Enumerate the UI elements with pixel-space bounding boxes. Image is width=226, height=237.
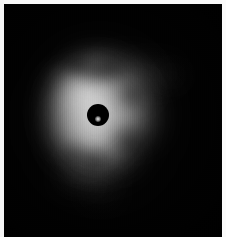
south-west-ridge (60, 113, 96, 157)
field-vignette (4, 4, 222, 237)
south-central-dark-notch (78, 150, 111, 169)
north-west-dust-notch (64, 56, 92, 75)
sky-field (4, 4, 222, 237)
western-rim (54, 80, 86, 140)
outer-diffuse-envelope (42, 50, 158, 190)
top-border (0, 0, 226, 4)
west-faint-streak (45, 70, 65, 76)
inner-bright-halo (57, 70, 137, 158)
coronagraphic-image-figure (0, 0, 226, 237)
right-border (222, 0, 226, 237)
scan-striping-overlay (4, 4, 222, 237)
south-tail-lower (85, 178, 117, 202)
northern-dust-lane (79, 59, 129, 82)
upper-left-bright-arc (58, 72, 110, 112)
south-west-tail (61, 164, 91, 188)
south-east-faint-spur (108, 150, 140, 170)
residual-stellar-core (95, 116, 101, 122)
south-west-dark-gap (64, 145, 84, 163)
eastern-arc (108, 92, 152, 136)
south-tail-upper (68, 155, 116, 181)
far-north-east-tip (158, 70, 186, 82)
south-east-dark-wedge (109, 124, 147, 157)
north-east-lobe (106, 64, 146, 96)
southern-bright-extension (76, 123, 124, 163)
northern-clump (74, 57, 118, 87)
occulting-spot (87, 104, 109, 126)
left-border (0, 0, 4, 237)
north-east-faint-wisp (126, 65, 178, 83)
eastern-dust-gap (120, 86, 142, 106)
